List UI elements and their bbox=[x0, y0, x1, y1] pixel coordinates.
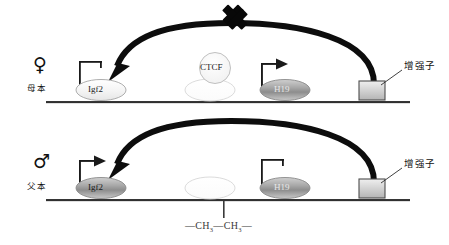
dna-line-maternal bbox=[46, 101, 410, 103]
methylation-tick-paternal bbox=[223, 201, 225, 218]
methylation-prefix: —CH bbox=[185, 220, 210, 231]
female-symbol: ♀ bbox=[33, 55, 47, 74]
ctcf-label-maternal: CTCF bbox=[200, 63, 223, 72]
enhancer-box-maternal bbox=[359, 81, 385, 100]
methylation-mid: —CH bbox=[213, 220, 238, 231]
maternal-label: 母本 bbox=[27, 84, 46, 93]
paternal-label: 父本 bbox=[27, 182, 46, 191]
enhancer-label-paternal: 增强子 bbox=[404, 159, 436, 169]
enhancer-to-igf2-arc-maternal bbox=[117, 23, 374, 84]
methylation-suffix: — bbox=[242, 220, 252, 231]
methylation-label: —CH3—CH3— bbox=[185, 221, 252, 234]
enhancer-to-igf2-arc-paternal bbox=[117, 121, 374, 182]
gene-label-igf2-paternal: Igf2 bbox=[88, 183, 103, 192]
male-symbol: ♂ bbox=[33, 152, 50, 171]
dna-line-paternal bbox=[46, 199, 410, 201]
gene-label-h19-maternal: H19 bbox=[274, 85, 290, 94]
enhancer-leader-line-paternal bbox=[381, 168, 402, 183]
enhancer-label-maternal: 增强子 bbox=[404, 61, 436, 71]
gene-label-igf2-maternal: Igf2 bbox=[88, 85, 103, 94]
gene-label-h19-paternal: H19 bbox=[274, 183, 290, 192]
icr-ellipse-paternal bbox=[185, 177, 235, 199]
panel-paternal bbox=[46, 121, 410, 218]
imprinting-diagram bbox=[0, 0, 449, 245]
enhancer-leader-line-maternal bbox=[381, 70, 402, 85]
enhancer-box-paternal bbox=[359, 179, 385, 198]
figure-canvas: ♀ 母本 Igf2 CTCF H19 增强子 ♂ 父本 Igf2 H19 增强子… bbox=[0, 0, 449, 245]
x-cross-icon bbox=[222, 4, 248, 30]
